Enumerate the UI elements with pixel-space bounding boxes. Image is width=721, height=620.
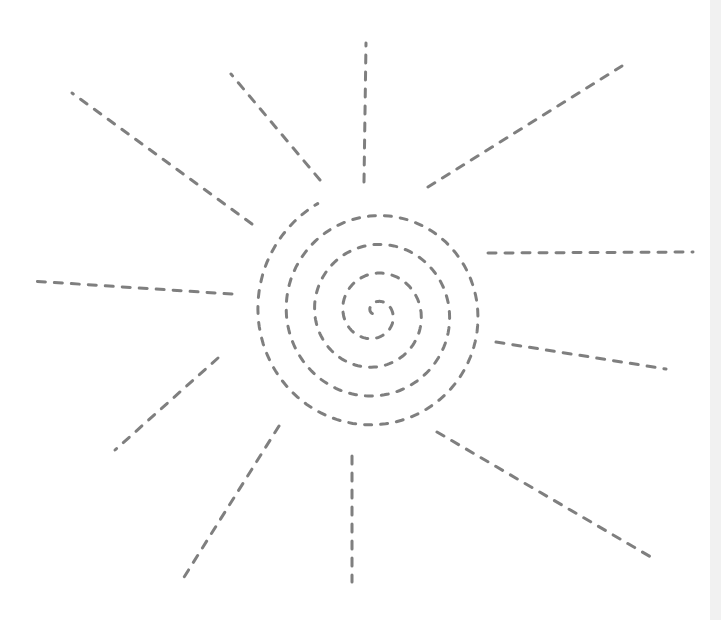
ray-lower-right — [496, 342, 666, 369]
ray-upper-left — [72, 93, 252, 224]
ray-top — [364, 43, 366, 182]
sun-rays — [31, 43, 693, 582]
ray-lower-left — [115, 358, 218, 450]
dashed-sun-drawing — [0, 0, 721, 620]
page-edge-strip — [710, 0, 721, 620]
ray-bottom-right — [437, 432, 656, 560]
sun-spiral — [258, 204, 478, 425]
ray-right — [488, 252, 693, 253]
ray-top-left — [231, 74, 320, 180]
ray-top-right — [428, 66, 622, 187]
ray-bottom-left — [181, 426, 279, 582]
drawing-canvas — [0, 0, 721, 620]
ray-left — [31, 281, 232, 294]
